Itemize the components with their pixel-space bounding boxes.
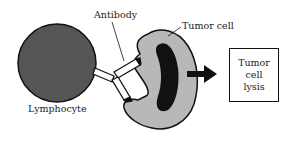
tumor-cell-label: Tumor cell bbox=[182, 21, 234, 31]
antibody bbox=[93, 58, 141, 102]
tumor-cell-lysis-box: Tumor cell lysis bbox=[229, 48, 279, 102]
result-line-3: lysis bbox=[243, 81, 264, 93]
result-line-1: Tumor bbox=[238, 57, 270, 69]
antibody-leader-line bbox=[112, 22, 124, 61]
tumor-cell bbox=[124, 30, 198, 129]
lymphocyte-label: Lymphocyte bbox=[28, 104, 87, 114]
lymphocyte-cell bbox=[18, 24, 96, 102]
result-line-2: cell bbox=[245, 69, 262, 81]
diagram: Antibody Tumor cell Lymphocyte Tumor cel… bbox=[0, 0, 293, 141]
antibody-label: Antibody bbox=[94, 10, 137, 20]
